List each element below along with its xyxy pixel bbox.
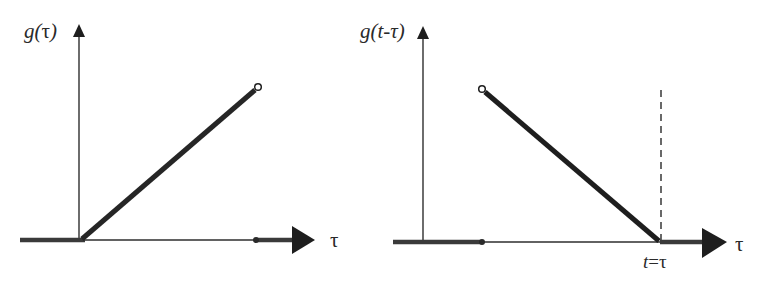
right-descending-line — [485, 92, 659, 241]
left-x-axis-arrow-icon — [292, 226, 315, 254]
left-closed-point — [253, 237, 259, 243]
left-ramp-line — [82, 90, 255, 239]
right-open-endpoint — [479, 86, 486, 93]
diagram-canvas: g(τ) τ g(t-τ) τ t=τ — [0, 0, 768, 296]
left-ramp-open-endpoint — [255, 84, 262, 91]
right-y-label: g(t-τ) — [360, 19, 405, 43]
left-x-label: τ — [330, 228, 338, 252]
right-x-axis-arrow-icon — [702, 228, 727, 258]
right-x-label: τ — [735, 232, 743, 256]
left-y-label: g(τ) — [24, 19, 57, 43]
right-y-axis-arrow-icon — [417, 26, 429, 39]
right-marker-label: t=τ — [643, 251, 667, 272]
right-plot: g(t-τ) τ t=τ — [360, 19, 743, 272]
left-plot: g(τ) τ — [20, 19, 338, 254]
right-closed-point — [479, 239, 485, 245]
left-y-axis-arrow-icon — [73, 24, 85, 37]
